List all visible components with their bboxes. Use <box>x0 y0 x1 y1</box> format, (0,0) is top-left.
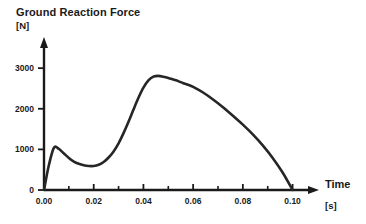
x-axis-tick-label: 0.06 <box>185 196 202 206</box>
data-series-line <box>44 76 293 190</box>
x-axis-tick-label: 0.04 <box>135 196 152 206</box>
chart-plot-area <box>0 0 366 224</box>
arrow-right-icon <box>308 186 319 194</box>
y-axis-tick-label: 3000 <box>0 63 34 73</box>
x-axis-title: Time <box>325 178 350 190</box>
x-axis-tick-label: 0.08 <box>235 196 252 206</box>
y-axis-tick-label: 1000 <box>0 144 34 154</box>
page-title: Ground Reaction Force <box>16 6 140 18</box>
x-axis-unit-label: [s] <box>325 200 337 211</box>
x-axis-tick-label: 0.10 <box>284 196 301 206</box>
y-axis-unit-label: [N] <box>16 20 29 31</box>
ground-reaction-force-figure: Ground Reaction Force [N] 0100020003000 … <box>0 0 366 224</box>
arrow-up-icon <box>40 37 48 48</box>
data-series-group <box>44 76 293 190</box>
x-axis-tick-label: 0.00 <box>36 196 53 206</box>
y-axis-tick-label: 0 <box>0 185 34 195</box>
axis-lines <box>40 37 319 194</box>
x-axis-tick-label: 0.02 <box>85 196 102 206</box>
y-axis-tick-label: 2000 <box>0 104 34 114</box>
